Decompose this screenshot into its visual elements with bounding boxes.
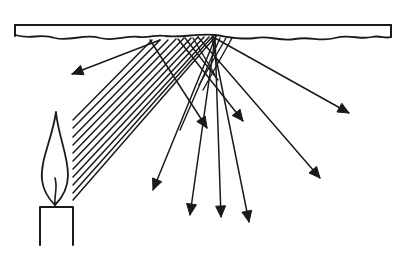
ray-line — [213, 37, 349, 113]
arrowhead-icon — [72, 65, 84, 74]
flame-icon — [42, 112, 68, 205]
candle-icon — [40, 112, 73, 245]
incident-ray — [73, 38, 191, 161]
arrowhead-icon — [242, 210, 252, 222]
reflected-ray — [213, 37, 349, 113]
arrowhead-icon — [216, 206, 226, 217]
diffuse-reflection-diagram — [0, 0, 408, 258]
candle-body — [40, 207, 73, 245]
arrowhead-icon — [232, 109, 243, 121]
arrowhead-icon — [153, 178, 162, 190]
incident-ray — [73, 40, 152, 120]
ray-line — [190, 38, 215, 215]
diagram-canvas — [0, 0, 408, 258]
arrowhead-icon — [187, 203, 197, 215]
arrowhead-icon — [337, 103, 349, 113]
reflected-ray — [215, 38, 226, 217]
wick — [55, 178, 56, 205]
incident-ray — [73, 37, 204, 177]
